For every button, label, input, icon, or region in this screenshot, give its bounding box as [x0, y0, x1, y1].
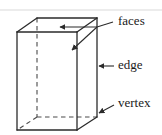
label-edge: edge [118, 57, 143, 72]
leader-faces-arrow-right-face [72, 27, 97, 50]
prism-diagram-figure: faces edge vertex [0, 0, 162, 135]
hidden-edge-back-bottom-left [17, 117, 37, 130]
visible-edge-top-left-depth [17, 18, 37, 32]
leader-faces [60, 22, 113, 50]
diagram-canvas: faces edge vertex [0, 0, 162, 135]
label-vertex: vertex [118, 95, 151, 110]
leader-vertex [99, 105, 114, 113]
visible-edge-bottom-right-depth [77, 117, 97, 130]
prism-visible-edges [17, 18, 97, 130]
label-faces: faces [118, 13, 145, 28]
leader-faces-stem [97, 22, 113, 27]
leader-vertex-arrow [99, 105, 114, 113]
prism-hidden-edges [17, 18, 97, 130]
